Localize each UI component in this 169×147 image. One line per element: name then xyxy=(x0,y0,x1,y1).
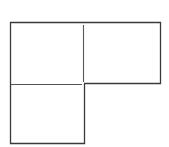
outer-outline xyxy=(11,23,161,144)
l-shape-diagram xyxy=(0,0,169,147)
